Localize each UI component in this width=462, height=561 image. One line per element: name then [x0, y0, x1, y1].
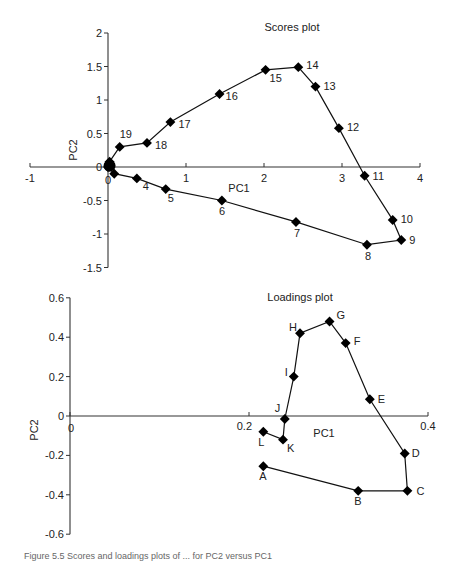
- y-tick-label: -0.6: [45, 528, 64, 540]
- x-tick-label: -1: [25, 172, 35, 184]
- y-tick-label: -0.2: [45, 449, 64, 461]
- y-tick-label: 0.4: [49, 331, 64, 343]
- y-tick-label: 0: [58, 410, 64, 422]
- x-tick-label: 1: [183, 172, 189, 184]
- data-point-label: B: [354, 495, 361, 507]
- data-point-label: 4: [143, 180, 149, 192]
- x-tick-label: 0: [68, 422, 74, 434]
- y-tick-label: -0.4: [45, 489, 64, 501]
- data-point-label: I: [285, 366, 288, 378]
- data-point-label: 11: [373, 170, 384, 182]
- series-line: [108, 67, 401, 245]
- data-point-label: 15: [270, 72, 282, 84]
- x-tick-label: 0: [105, 174, 111, 186]
- data-point-marker: [334, 123, 344, 133]
- data-point-label: J: [275, 402, 281, 414]
- chart-title: Scores plot: [264, 21, 319, 33]
- y-tick-label: 1.5: [87, 61, 102, 73]
- data-point-label: 16: [226, 90, 238, 102]
- data-point-marker: [396, 235, 406, 245]
- data-point-label: F: [354, 335, 361, 347]
- data-point-label: G: [337, 309, 346, 321]
- data-point-marker: [115, 142, 125, 152]
- data-point-marker: [365, 394, 375, 404]
- y-tick-label: -0.5: [83, 195, 102, 207]
- chart-title: Loadings plot: [267, 291, 332, 303]
- x-tick-label: 0.2: [237, 420, 252, 432]
- data-point-marker: [215, 89, 225, 99]
- data-point-label: 14: [306, 59, 318, 71]
- data-point-label: 5: [168, 192, 174, 204]
- y-tick-label: 0.2: [49, 371, 64, 383]
- data-point-label: 9: [409, 234, 415, 246]
- data-point-marker: [360, 171, 370, 181]
- data-point-marker: [388, 215, 398, 225]
- data-point-marker: [400, 448, 410, 458]
- data-point-marker: [341, 338, 351, 348]
- data-point-marker: [289, 372, 299, 382]
- data-point-marker: [132, 173, 142, 183]
- data-point-label: A: [259, 470, 267, 482]
- data-point-label: C: [416, 485, 424, 497]
- data-point-marker: [402, 486, 412, 496]
- x-axis-label: PC1: [313, 427, 334, 439]
- y-tick-label: 0: [96, 161, 102, 173]
- data-point-label: 18: [155, 139, 167, 151]
- loadings-plot: 00.20.4-0.6-0.4-0.200.20.40.6Loadings pl…: [28, 291, 436, 540]
- data-point-label: 7: [294, 227, 300, 239]
- y-tick-label: 2: [96, 27, 102, 39]
- y-tick-label: -1.5: [83, 262, 102, 274]
- data-point-label: 6: [219, 205, 225, 217]
- y-tick-label: 0.5: [87, 128, 102, 140]
- data-point-label: 8: [365, 250, 371, 262]
- data-point-label: 13: [323, 80, 335, 92]
- data-point-label: D: [412, 447, 420, 459]
- x-axis-label: PC1: [228, 182, 249, 194]
- series-line: [263, 321, 407, 491]
- y-tick-label: 1: [96, 94, 102, 106]
- x-tick-label: 3: [339, 172, 345, 184]
- data-point-label: H: [289, 321, 297, 333]
- data-point-marker: [325, 316, 335, 326]
- data-point-label: 10: [401, 213, 413, 225]
- y-tick-label: 0.6: [49, 292, 64, 304]
- y-axis-label: PC2: [28, 419, 40, 440]
- data-point-label: 17: [178, 118, 190, 130]
- data-point-label: L: [258, 436, 264, 448]
- data-point-label: 19: [120, 128, 132, 140]
- y-axis-label: PC2: [67, 139, 79, 160]
- scores-plot: -101234-1.5-1-0.500.511.52Scores plotPC1…: [25, 21, 423, 274]
- data-point-label: K: [287, 442, 295, 454]
- x-tick-label: 4: [417, 172, 423, 184]
- data-point-marker: [362, 240, 372, 250]
- data-point-label: E: [378, 393, 385, 405]
- x-tick-label: 0.4: [420, 420, 435, 432]
- figure-caption: Figure 5.5 Scores and loadings plots of …: [24, 551, 272, 561]
- x-tick-label: 2: [261, 172, 267, 184]
- data-point-label: 12: [347, 121, 359, 133]
- y-tick-label: -1: [92, 228, 102, 240]
- data-point-marker: [291, 217, 301, 227]
